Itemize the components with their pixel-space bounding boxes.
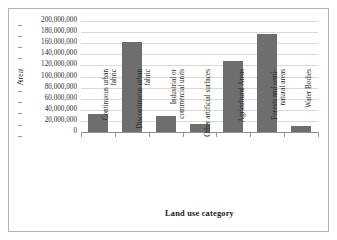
y-axis-tick-label: 20,000,000 [22, 117, 77, 124]
y-axis-tick-label: 180,000,000 [22, 28, 77, 35]
y-axis-tick-label: 60,000,000 [22, 95, 77, 102]
y-axis-tick-mark [18, 102, 22, 103]
y-axis-tick-labels: 020,000,00040,000,00060,000,00080,000,00… [22, 18, 77, 138]
x-axis-tick-label: Water Bodies [305, 69, 337, 137]
y-axis-tick-mark [18, 136, 22, 137]
y-axis-tick-mark [18, 47, 22, 48]
y-axis-tick-mark [18, 125, 22, 126]
y-axis-tick-label: 0 [22, 128, 77, 135]
x-axis-tick-labels: Continuous urban fabricDiscontinuous urb… [81, 137, 318, 205]
y-axis-tick-mark [18, 58, 22, 59]
y-axis-tick-label: 120,000,000 [22, 62, 77, 69]
bar-chart-figure: Area 020,000,00040,000,00060,000,00080,0… [0, 0, 337, 240]
y-axis-tick-mark [18, 69, 22, 70]
y-axis-tick-mark [18, 80, 22, 81]
y-axis-tick-mark [18, 91, 22, 92]
y-axis-tick-mark [18, 25, 22, 26]
y-axis-tick-label: 80,000,000 [22, 84, 77, 91]
y-axis-tick-label: 200,000,000 [22, 17, 77, 24]
x-axis-title: Land use category [81, 209, 318, 218]
y-axis-tick-label: 40,000,000 [22, 106, 77, 113]
y-axis-tick-mark [18, 36, 22, 37]
y-axis-tick-label: 160,000,000 [22, 40, 77, 47]
y-axis-tick-label: 100,000,000 [22, 73, 77, 80]
y-axis-tick-label: 140,000,000 [22, 51, 77, 58]
y-axis-tick-mark [18, 113, 22, 114]
